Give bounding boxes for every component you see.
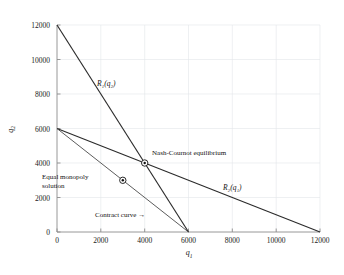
- x-tick-label-0: 0: [37, 236, 77, 245]
- y-tick-label-4000: 4000: [10, 159, 50, 168]
- x-tick-label-12000: 12000: [300, 236, 340, 245]
- y-tick-label-10000: 10000: [10, 56, 50, 65]
- figure-canvas: 12000 10000 8000 6000 4000 2000 0 0 2000…: [0, 0, 344, 275]
- nash-cournot-equilibrium-marker: [142, 160, 148, 166]
- cournot-duopoly-plot: [0, 0, 344, 275]
- y-axis-title: q2: [6, 114, 17, 144]
- y-tick-label-8000: 8000: [10, 90, 50, 99]
- y-tick-label-2000: 2000: [10, 194, 50, 203]
- x-tick-label-8000: 8000: [212, 236, 252, 245]
- r1-curve-label: R₁(q₂): [97, 79, 116, 88]
- x-tick-label-2000: 2000: [81, 236, 121, 245]
- x-tick-label-4000: 4000: [125, 236, 165, 245]
- equal-monopoly-solution-label: Equal monopoly solution: [42, 173, 112, 191]
- contract-curve-label: Contract curve →: [95, 211, 145, 220]
- equal-monopoly-solution-marker: [120, 177, 126, 183]
- x-tick-label-10000: 10000: [256, 236, 296, 245]
- r2-curve-label: R₂(q₁): [223, 183, 242, 192]
- x-tick-label-6000: 6000: [169, 236, 209, 245]
- nash-cournot-equilibrium-label: Nash-Cournot equilibrium: [152, 149, 226, 158]
- y-tick-label-12000: 12000: [10, 21, 50, 30]
- x-axis-title: q1: [168, 248, 210, 259]
